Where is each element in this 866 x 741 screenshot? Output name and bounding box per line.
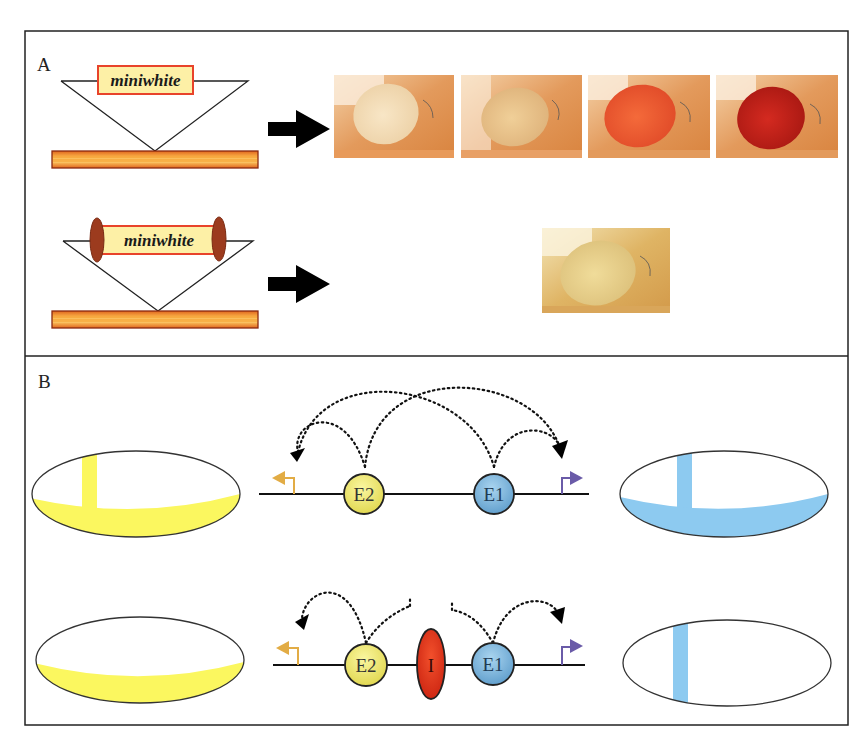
- promoter-left-icon: [276, 641, 298, 665]
- embryo-right-blue-stripe: [623, 615, 831, 715]
- enhancer-e2: E2: [344, 474, 384, 514]
- eye-photo-dark-red: [716, 75, 838, 158]
- right-arrow-icon: [268, 265, 330, 303]
- svg-text:E2: E2: [355, 655, 376, 676]
- promoter-right-icon: [562, 639, 583, 665]
- transgene-label: miniwhite: [124, 231, 194, 250]
- insulator-element: I: [417, 629, 445, 699]
- panel-b: B: [30, 371, 831, 715]
- transgene-label: miniwhite: [111, 71, 181, 90]
- insulator-left: [90, 218, 104, 262]
- panel-a-label: A: [37, 54, 51, 75]
- promoter-right-icon: [562, 471, 583, 494]
- enhancer-e1: E1: [472, 643, 514, 685]
- construct-insulator-flanked: miniwhite: [52, 217, 258, 328]
- interaction-arcs: [297, 388, 559, 467]
- row-no-insulator: E2 E1: [30, 388, 828, 545]
- panel-b-label: B: [38, 371, 51, 392]
- eye-photo-pale-yellow: [461, 75, 582, 158]
- eye-photo-white: [334, 75, 454, 158]
- embryo-left-yellow-band: [34, 617, 244, 710]
- svg-text:E1: E1: [483, 484, 504, 505]
- row-with-insulator: E2 I E1: [34, 593, 831, 715]
- promoter-left-icon: [272, 471, 294, 494]
- construct-unflanked: miniwhite: [52, 66, 258, 168]
- panel-a: A miniwhite: [37, 54, 838, 328]
- eye-photo-orange: [588, 75, 710, 158]
- enhancer-e2: E2: [345, 644, 387, 686]
- embryo-right-blue: [620, 448, 828, 545]
- svg-text:I: I: [428, 655, 434, 676]
- arrowhead-icon: [550, 607, 565, 624]
- arrowhead-icon: [552, 440, 568, 459]
- embryo-left-yellow: [30, 448, 240, 545]
- enhancer-e1: E1: [474, 474, 514, 514]
- insulator-right: [212, 217, 226, 261]
- svg-text:E2: E2: [353, 484, 374, 505]
- eye-photo-uniform-yellow: [542, 228, 670, 314]
- figure: A miniwhite: [0, 0, 866, 741]
- svg-text:E1: E1: [482, 654, 503, 675]
- figure-canvas: A miniwhite: [0, 0, 866, 741]
- right-arrow-icon: [268, 110, 330, 148]
